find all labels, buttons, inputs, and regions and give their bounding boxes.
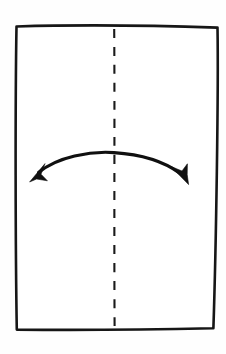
diagram-svg [0, 0, 226, 354]
origami-diagram-canvas: Fold the paper in half along the dashed … [0, 0, 226, 354]
